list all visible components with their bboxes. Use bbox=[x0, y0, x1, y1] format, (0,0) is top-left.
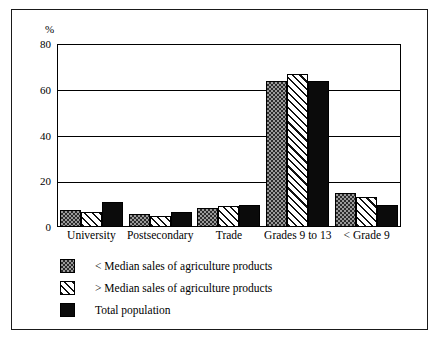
chart-figure-frame: % 020406080 UniversityPostsecondaryTrade… bbox=[11, 9, 428, 330]
legend-swatch-icon bbox=[60, 303, 75, 317]
bar bbox=[377, 205, 398, 227]
y-axis-tick-20: 20 bbox=[40, 175, 51, 187]
x-axis-label-0: University bbox=[67, 229, 116, 241]
legend-label: < Median sales of agriculture products bbox=[95, 260, 272, 272]
bar bbox=[239, 205, 260, 227]
bar-group bbox=[332, 44, 401, 227]
bars-layer bbox=[57, 44, 401, 227]
bar bbox=[308, 81, 329, 227]
legend-swatch-icon bbox=[60, 259, 75, 273]
y-axis-tick-labels: 020406080 bbox=[12, 44, 57, 227]
chart-legend: < Median sales of agriculture products> … bbox=[60, 256, 390, 322]
bar bbox=[356, 197, 377, 227]
bar bbox=[218, 206, 239, 227]
bar bbox=[81, 212, 102, 227]
y-axis-tick-40: 40 bbox=[40, 130, 51, 142]
bar-group bbox=[57, 44, 126, 227]
legend-item: Total population bbox=[60, 300, 390, 319]
bar bbox=[150, 216, 171, 227]
y-axis-tick-60: 60 bbox=[40, 84, 51, 96]
bar-group bbox=[263, 44, 332, 227]
bar bbox=[197, 208, 218, 227]
y-axis-tick-0: 0 bbox=[46, 221, 52, 233]
legend-label: > Median sales of agriculture products bbox=[95, 282, 272, 294]
legend-swatch-icon bbox=[60, 281, 75, 295]
legend-item: < Median sales of agriculture products bbox=[60, 256, 390, 275]
x-axis-label-3: Grades 9 to 13 bbox=[264, 229, 331, 241]
bar bbox=[60, 210, 81, 227]
y-axis-tick-80: 80 bbox=[40, 38, 51, 50]
bar bbox=[171, 212, 192, 227]
bar bbox=[129, 214, 150, 227]
x-axis-label-1: Postsecondary bbox=[127, 229, 193, 241]
bar bbox=[287, 74, 308, 227]
bar-chart: % 020406080 UniversityPostsecondaryTrade… bbox=[12, 10, 427, 329]
x-axis-tick-labels: UniversityPostsecondaryTradeGrades 9 to … bbox=[57, 229, 401, 249]
legend-item: > Median sales of agriculture products bbox=[60, 278, 390, 297]
y-axis-unit-label: % bbox=[45, 23, 54, 35]
bar-group bbox=[126, 44, 195, 227]
legend-label: Total population bbox=[95, 304, 171, 316]
bar-group bbox=[195, 44, 264, 227]
bar bbox=[102, 202, 123, 227]
bar bbox=[335, 193, 356, 227]
bar bbox=[266, 81, 287, 227]
x-axis-label-2: Trade bbox=[216, 229, 242, 241]
x-axis-label-4: < Grade 9 bbox=[344, 229, 390, 241]
